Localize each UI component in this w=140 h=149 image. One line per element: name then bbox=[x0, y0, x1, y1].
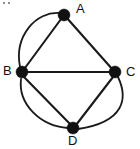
graph-figure: A B C D bbox=[0, 0, 140, 149]
edge-c-d-straight bbox=[76, 77, 113, 125]
scan-speck-one bbox=[3, 2, 5, 4]
vertex-label-a: A bbox=[76, 2, 85, 15]
vertex-label-b: B bbox=[3, 64, 12, 77]
edge-group bbox=[19, 13, 123, 129]
vertex-a bbox=[58, 9, 70, 21]
scan-speck-two bbox=[8, 2, 10, 4]
edge-a-b-curved bbox=[19, 13, 60, 67]
edge-a-b-straight bbox=[22, 15, 64, 72]
vertex-c bbox=[109, 66, 121, 78]
vertex-label-d: D bbox=[68, 134, 77, 147]
edge-a-c-straight bbox=[66, 17, 113, 70]
edge-b-d-curved bbox=[21, 79, 68, 128]
edge-c-d-curved bbox=[78, 77, 123, 129]
edge-b-d-straight bbox=[24, 77, 71, 125]
graph-canvas bbox=[0, 0, 140, 149]
vertex-label-c: C bbox=[126, 65, 135, 78]
vertex-b bbox=[16, 66, 28, 78]
